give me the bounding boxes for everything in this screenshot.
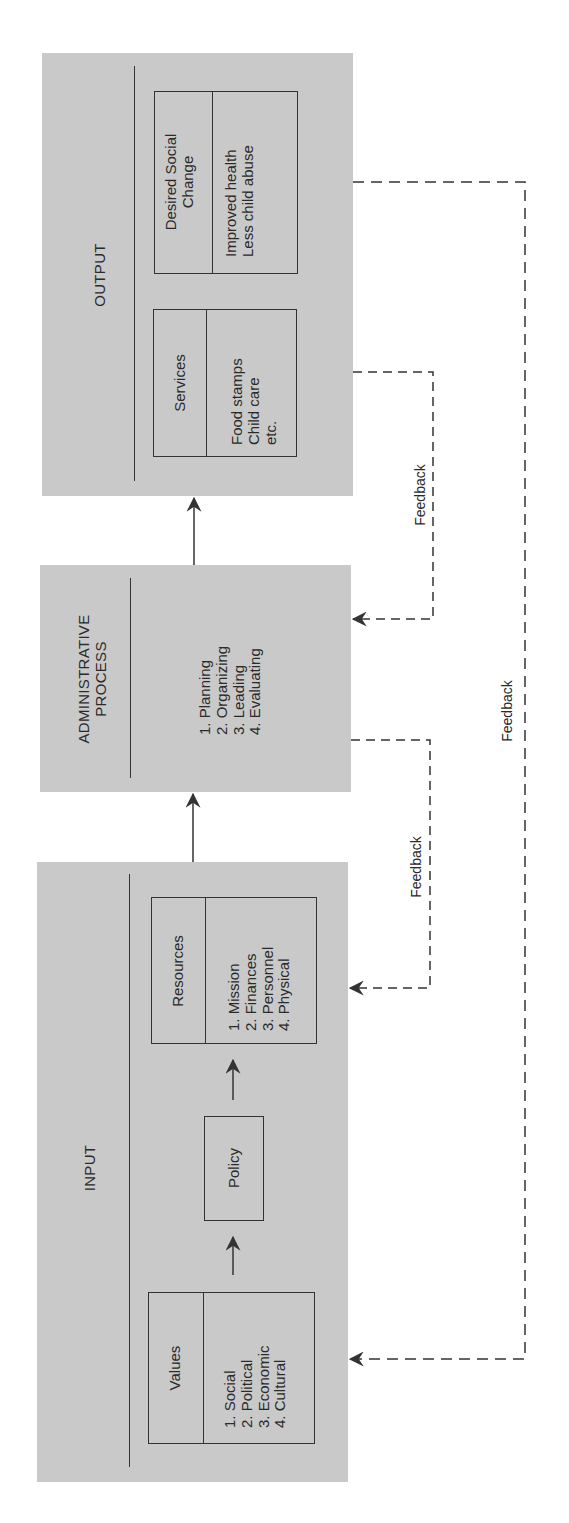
feedback-label-admin-resources: Feedback <box>407 827 425 907</box>
output-divider-line <box>134 66 135 481</box>
values-divider <box>203 1293 204 1443</box>
administrative-process-items: 1. Planning 2. Organizing 3. Leading 4. … <box>197 625 273 735</box>
administrative-process-title: ADMINISTRATIVE PROCESS <box>76 604 114 754</box>
services-items: Food stamps Child care etc. <box>229 325 283 445</box>
values-title: Values <box>165 1308 185 1428</box>
services-title: Services <box>170 323 190 443</box>
resources-items: 1. Mission 2. Finances 3. Personnel 4. P… <box>226 911 302 1031</box>
feedback-label-outcome-values: Feedback <box>498 671 516 751</box>
services-divider <box>206 310 207 456</box>
desired-social-change-title: Desired Social Change <box>163 107 203 257</box>
resources-title: Resources <box>168 911 188 1031</box>
administrative-process-divider-line <box>130 578 131 778</box>
desired-social-change-items: Improved health Less child abuse <box>223 107 263 257</box>
input-title: INPUT <box>80 1108 100 1228</box>
feedback-label-services-admin: Feedback <box>411 455 429 535</box>
resources-divider <box>205 898 206 1043</box>
desired-social-change-divider <box>212 92 213 273</box>
output-title: OUTPUT <box>90 215 110 335</box>
values-items: 1. Social 2. Political 3. Economic 4. Cu… <box>222 1308 298 1428</box>
input-divider-line <box>129 874 130 1467</box>
feedback-line-outcome-to-values <box>350 182 525 1359</box>
policy-title: Policy <box>224 1118 244 1218</box>
